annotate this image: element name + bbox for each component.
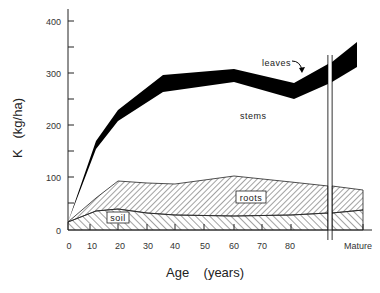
x-tick-30: 30 xyxy=(143,241,153,251)
y-tick-300: 300 xyxy=(46,69,61,79)
y-tick-400: 400 xyxy=(46,17,61,27)
x-tick-10: 10 xyxy=(87,241,97,251)
x-tick-20: 20 xyxy=(115,241,125,251)
y-tick-100: 100 xyxy=(46,173,61,183)
stems-label: stems xyxy=(240,111,267,121)
leaves-label: leaves xyxy=(262,58,291,68)
soil-label: soil xyxy=(110,213,126,223)
y-tick-200: 200 xyxy=(46,121,61,131)
x-tick-60: 60 xyxy=(229,241,239,251)
roots-area-mature xyxy=(332,186,363,213)
x-axis-title: Age (years) xyxy=(166,265,244,280)
x-tick-40: 40 xyxy=(170,241,180,251)
y-axis-ticks xyxy=(68,21,74,203)
x-tick-0: 0 xyxy=(66,241,71,251)
soil-area-mature xyxy=(332,210,363,230)
roots-label: roots xyxy=(240,193,263,203)
leaves-arrowhead-icon xyxy=(299,67,305,73)
leaves-band-mature xyxy=(332,42,357,82)
y-axis-title: K (kg/ha) xyxy=(10,98,25,158)
x-tick-70: 70 xyxy=(257,241,267,251)
potassium-accumulation-chart: 400 300 200 100 0 0 10 20 30 40 50 60 70… xyxy=(0,0,380,293)
y-tick-0: 0 xyxy=(56,226,61,236)
x-tick-50: 50 xyxy=(200,241,210,251)
x-tick-mature: Mature xyxy=(344,241,372,251)
x-tick-80: 80 xyxy=(285,241,295,251)
axis-break-gap xyxy=(329,55,332,240)
